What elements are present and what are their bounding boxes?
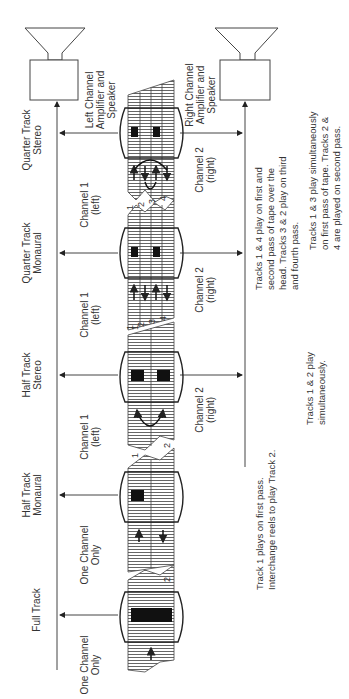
svg-text:Amplifier and: Amplifier and [95, 71, 106, 129]
channel-label-quarter-mono-bottom: Channel 2 (right) [194, 267, 216, 313]
svg-text:Full Track: Full Track [31, 587, 42, 631]
svg-text:Channel 1: Channel 1 [79, 414, 90, 460]
svg-text:Interchange reels to play Trac: Interchange reels to play Track 2. [266, 450, 277, 590]
format-label-quarter-stereo: Quarter Track Stereo [21, 108, 43, 170]
right-speaker-icon [215, 28, 278, 100]
format-label-half-monaural: Half Track Monaural [21, 471, 43, 517]
svg-text:Only: Only [90, 655, 101, 676]
svg-text:Tracks 1 & 3 play simultaneous: Tracks 1 & 3 play simultaneously [307, 111, 318, 250]
svg-text:Quarter Track: Quarter Track [21, 108, 32, 170]
format-label-half-stereo: Half Track Stereo [21, 351, 43, 397]
svg-text:Speaker: Speaker [106, 81, 117, 119]
svg-text:head. Tracks 3 & 2 play on thi: head. Tracks 3 & 2 play on third [277, 156, 288, 290]
channel-label-quarter-mono-top: Channel 1 (left) [79, 292, 101, 338]
svg-text:Tracks 1 & 2 play: Tracks 1 & 2 play [304, 352, 315, 425]
svg-text:Stereo: Stereo [32, 360, 43, 390]
svg-text:3: 3 [147, 319, 157, 324]
svg-text:Speaker: Speaker [206, 76, 217, 114]
svg-text:Channel 2: Channel 2 [194, 147, 205, 193]
svg-text:4: 4 [158, 196, 168, 201]
svg-text:Half Track: Half Track [21, 471, 32, 517]
svg-text:(left): (left) [90, 305, 101, 325]
tape-half-track-monaural [128, 448, 174, 572]
svg-text:4: 4 [158, 316, 168, 321]
svg-text:second pass of tape over the: second pass of tape over the [265, 168, 276, 290]
tape-quarter-track-monaural [128, 200, 174, 330]
tape-quarter-track-stereo [128, 80, 174, 202]
svg-text:1: 1 [130, 325, 140, 330]
tape-half-track-stereo [128, 322, 174, 450]
svg-text:4 are played on second pass.: 4 are played on second pass. [331, 126, 342, 250]
svg-text:Monaural: Monaural [32, 474, 43, 516]
svg-text:Monaural: Monaural [32, 232, 43, 274]
format-label-full-track: Full Track [31, 587, 42, 631]
svg-text:2: 2 [136, 202, 146, 207]
svg-text:2: 2 [162, 577, 172, 582]
svg-text:Track 1 plays on first pass.: Track 1 plays on first pass. [254, 477, 265, 590]
svg-text:(left): (left) [90, 195, 101, 215]
tape-track-format-diagram: Left Channel Amplifier and Speaker Right… [0, 0, 349, 699]
svg-text:Stereo: Stereo [32, 125, 43, 155]
svg-text:(left): (left) [90, 427, 101, 447]
svg-text:Left Channel: Left Channel [84, 72, 95, 129]
svg-text:3: 3 [147, 199, 157, 204]
svg-text:Channel 1: Channel 1 [79, 292, 90, 338]
svg-text:Channel 1: Channel 1 [79, 182, 90, 228]
channel-label-half-stereo-bottom: Channel 2 (right) [194, 387, 216, 433]
svg-text:(right): (right) [205, 277, 216, 303]
svg-text:Channel 2: Channel 2 [194, 267, 205, 313]
left-speaker-label: Left Channel Amplifier and Speaker [84, 71, 117, 129]
svg-text:One Channel: One Channel [79, 526, 90, 585]
svg-text:Half Track: Half Track [21, 351, 32, 397]
svg-text:Only: Only [90, 545, 101, 566]
svg-text:Channel 2: Channel 2 [194, 387, 205, 433]
svg-text:Right Channel: Right Channel [184, 63, 195, 126]
svg-text:and fourth pass.: and fourth pass. [289, 222, 300, 290]
svg-text:1: 1 [125, 205, 135, 210]
svg-text:Tracks 1 & 4 play on first and: Tracks 1 & 4 play on first and [253, 167, 264, 290]
note-quarter-track-monaural: Tracks 1 & 4 play on first and second pa… [253, 156, 300, 290]
channel-label-quarter-stereo-top: Channel 1 (left) [79, 182, 101, 228]
svg-text:(right): (right) [205, 397, 216, 423]
left-speaker-icon [25, 28, 85, 100]
right-speaker-label: Right Channel Amplifier and Speaker [184, 63, 217, 126]
svg-text:1: 1 [130, 453, 140, 458]
channel-label-quarter-stereo-bottom: Channel 2 (right) [194, 147, 216, 193]
channel-label-full-track-top: One Channel Only [79, 636, 101, 695]
note-half-track-monaural: Track 1 plays on first pass. Interchange… [254, 450, 277, 590]
note-half-track-stereo: Tracks 1 & 2 play simultaneously. [304, 352, 327, 425]
svg-text:simultaneously.: simultaneously. [316, 360, 327, 425]
svg-text:One Channel: One Channel [79, 636, 90, 695]
svg-text:(right): (right) [205, 157, 216, 183]
svg-text:2: 2 [162, 443, 172, 448]
channel-label-half-mono-top: One Channel Only [79, 526, 101, 585]
svg-text:Amplifier and: Amplifier and [195, 66, 206, 124]
format-label-quarter-monaural: Quarter Track Monaural [21, 221, 43, 283]
svg-text:on first pass of tape. Tracks: on first pass of tape. Tracks 2 & [319, 116, 330, 250]
note-quarter-track-stereo: Tracks 1 & 3 play simultaneously on firs… [307, 111, 342, 250]
svg-text:Quarter Track: Quarter Track [21, 221, 32, 283]
channel-label-half-stereo-top: Channel 1 (left) [79, 414, 101, 460]
